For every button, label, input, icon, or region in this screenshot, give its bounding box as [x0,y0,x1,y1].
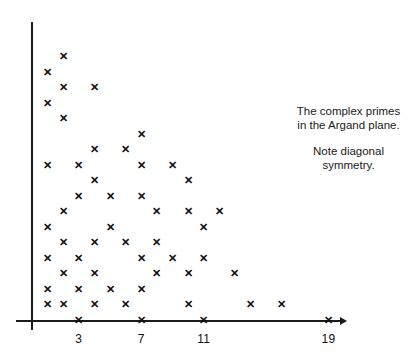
data-point-marker: ✕ [199,223,208,232]
data-point-marker: ✕ [90,238,99,247]
data-point-marker: ✕ [184,207,193,216]
data-point-marker: ✕ [152,238,161,247]
data-point-marker: ✕ [246,300,255,309]
data-point-marker: ✕ [230,269,239,278]
data-point-marker: ✕ [121,300,130,309]
y-axis [31,22,33,330]
data-point-marker: ✕ [59,52,68,61]
x-axis-tick-label: 3 [75,332,82,346]
data-point-marker: ✕ [106,285,115,294]
data-point-marker: ✕ [106,192,115,201]
data-point-marker: ✕ [74,316,83,325]
data-point-marker: ✕ [137,285,146,294]
data-point-marker: ✕ [215,207,224,216]
data-point-marker: ✕ [74,254,83,263]
data-point-marker: ✕ [121,238,130,247]
data-point-marker: ✕ [59,300,68,309]
data-point-marker: ✕ [74,285,83,294]
data-point-marker: ✕ [137,161,146,170]
data-point-marker: ✕ [137,192,146,201]
data-point-marker: ✕ [43,300,52,309]
data-point-marker: ✕ [90,83,99,92]
data-point-marker: ✕ [43,285,52,294]
data-point-marker: ✕ [43,223,52,232]
data-point-marker: ✕ [74,161,83,170]
data-point-marker: ✕ [152,269,161,278]
data-point-marker: ✕ [184,300,193,309]
data-point-marker: ✕ [277,300,286,309]
data-point-marker: ✕ [43,68,52,77]
data-point-marker: ✕ [74,192,83,201]
data-point-marker: ✕ [184,176,193,185]
data-point-marker: ✕ [168,254,177,263]
data-point-marker: ✕ [43,161,52,170]
x-axis [16,320,342,322]
data-point-marker: ✕ [59,207,68,216]
data-point-marker: ✕ [43,254,52,263]
data-point-marker: ✕ [106,223,115,232]
data-point-marker: ✕ [199,254,208,263]
data-point-marker: ✕ [59,83,68,92]
argand-plane-plot: ✕✕✕✕✕✕✕✕✕✕✕✕✕✕✕✕✕✕✕✕✕✕✕✕✕✕✕✕✕✕✕✕✕✕✕✕✕✕✕✕… [0,0,417,364]
x-axis-tick-label: 11 [197,332,210,346]
x-axis-tick-label: 7 [138,332,145,346]
annotation-secondary: Note diagonal symmetry. [281,144,416,172]
data-point-marker: ✕ [90,176,99,185]
data-point-marker: ✕ [184,269,193,278]
x-axis-arrow-icon [340,317,347,325]
data-point-marker: ✕ [59,269,68,278]
data-point-marker: ✕ [121,145,130,154]
data-point-marker: ✕ [90,145,99,154]
data-point-marker: ✕ [168,161,177,170]
data-point-marker: ✕ [137,254,146,263]
data-point-marker: ✕ [59,114,68,123]
data-point-marker: ✕ [137,316,146,325]
data-point-marker: ✕ [59,238,68,247]
data-point-marker: ✕ [137,130,146,139]
data-point-marker: ✕ [90,269,99,278]
annotation-primary: The complex primes in the Argand plane. [281,104,416,132]
data-point-marker: ✕ [90,300,99,309]
data-point-marker: ✕ [152,207,161,216]
x-axis-tick-label: 19 [322,332,336,346]
data-point-marker: ✕ [199,316,208,325]
data-point-marker: ✕ [43,99,52,108]
data-point-marker: ✕ [324,316,333,325]
